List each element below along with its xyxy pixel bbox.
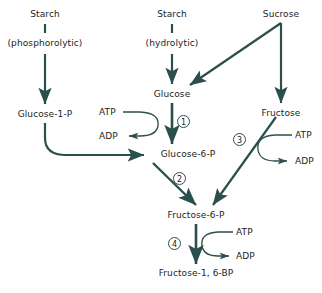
step-marker-2: 2 [173, 172, 186, 185]
node-phosphorolytic-label: (phosphorolytic) [8, 38, 83, 48]
cofactor-curve-reaction-3 [258, 135, 292, 161]
node-glucose-1-p: Glucose-1-P [18, 109, 73, 119]
cofactor-adp-reaction-3: ADP [295, 156, 314, 166]
node-glucose: Glucose [154, 89, 191, 99]
cofactor-adp-reaction-4: ADP [236, 251, 255, 261]
cofactor-curve-reaction-1 [123, 112, 158, 136]
node-fructose: Fructose [262, 108, 301, 118]
node-fructose-6-p: Fructose-6-P [168, 210, 225, 220]
cofactor-adp-reaction-1: ADP [99, 131, 118, 141]
step-marker-1: 1 [177, 115, 190, 128]
node-fructose-1-6-bp: Fructose-1, 6-BP [159, 268, 234, 278]
arrow-glucose1p-to-glucose6p [45, 123, 144, 155]
cofactor-atp-reaction-3: ATP [295, 130, 312, 140]
node-hydrolytic-label: (hydrolytic) [146, 38, 199, 48]
arrow-sucrose-to-glucose [190, 23, 281, 85]
node-starch-hydrolytic: Starch [157, 9, 187, 19]
step-marker-4: 4 [168, 237, 181, 250]
arrow-glucose6p-to-fructose6p [153, 163, 196, 205]
cofactor-curve-reaction-4 [202, 232, 233, 256]
cofactor-atp-reaction-4: ATP [236, 227, 253, 237]
node-glucose-6-p: Glucose-6-P [161, 149, 216, 159]
step-marker-3: 3 [233, 133, 246, 146]
arrow-fructose-to-fructose6p [213, 117, 276, 205]
cofactor-atp-reaction-1: ATP [99, 107, 116, 117]
node-starch-phosphorolytic: Starch [30, 9, 60, 19]
node-sucrose: Sucrose [263, 9, 299, 19]
